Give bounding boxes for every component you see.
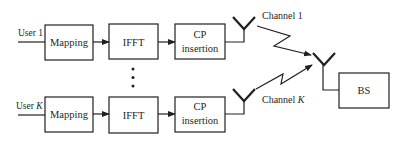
base-station: BS <box>313 53 389 108</box>
mapping-label-user-1: Mapping <box>50 37 89 48</box>
cp-to-antenna-line-user-1 <box>225 28 244 42</box>
mapping-label-user-k: Mapping <box>50 109 89 120</box>
antenna-to-bs-line <box>323 64 339 90</box>
bs-label: BS <box>358 85 371 96</box>
channel-1-wireless-link-icon <box>257 26 311 55</box>
channel-k-label: Channel K <box>262 94 306 105</box>
cp-label-user-1: CP <box>194 29 207 40</box>
channel-k-wireless-link-icon <box>256 65 312 89</box>
ofdma-uplink-diagram: User 1 Mapping IFFT CP insertion Channel… <box>0 0 408 145</box>
user-1-chain: User 1 Mapping IFFT CP insertion Channel… <box>18 10 311 60</box>
insertion-label-user-1: insertion <box>182 43 219 54</box>
antenna-icon-user-k <box>233 89 255 101</box>
more-users-ellipsis <box>132 68 135 88</box>
cp-label-user-k: CP <box>194 101 207 112</box>
antenna-icon-user-1 <box>233 17 255 29</box>
insertion-label-user-k: insertion <box>182 115 219 126</box>
channel-1-label: Channel 1 <box>262 10 303 21</box>
ifft-label-user-1: IFFT <box>123 37 145 48</box>
user-1-label: User 1 <box>18 28 43 38</box>
cp-to-antenna-line-user-k <box>225 100 244 114</box>
user-k-chain: User K Mapping IFFT CP insertion Channel… <box>16 65 312 133</box>
ifft-label-user-k: IFFT <box>123 110 145 121</box>
base-station-antenna-icon <box>313 53 335 65</box>
user-k-label: User K <box>16 101 43 111</box>
